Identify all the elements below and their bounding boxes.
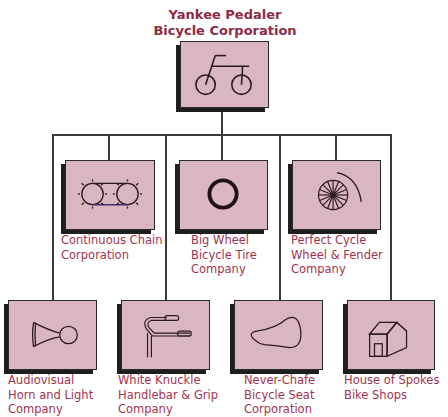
subsidiary-label-wheel: Perfect Cycle Wheel & Fender Company	[291, 233, 383, 277]
subsidiary-box-shops	[347, 300, 435, 370]
label-line: Bicycle Tire	[191, 248, 257, 263]
connector-to-handlebar	[165, 134, 167, 300]
label-line: Company	[291, 262, 383, 277]
label-line: Bicycle Seat	[244, 388, 315, 403]
subsidiary-box-tire	[179, 160, 268, 230]
root-company-title: Yankee Pedaler Bicycle Corporation	[140, 7, 310, 39]
label-line: Company	[8, 402, 93, 417]
tire-icon	[180, 161, 267, 229]
label-line: White Knuckle	[118, 373, 218, 388]
label-line: Company	[118, 402, 218, 417]
label-line: Audiovisual	[8, 373, 93, 388]
connector-to-horn	[52, 134, 54, 300]
bicycle-icon	[181, 42, 268, 107]
subsidiary-box-chain	[65, 160, 155, 230]
label-line: Handlebar & Grip	[118, 388, 218, 403]
label-line: Corporation	[244, 402, 315, 417]
chain-sprocket-icon	[66, 161, 154, 229]
root-title-line-1: Yankee Pedaler	[140, 7, 310, 23]
label-line: Horn and Light	[8, 388, 93, 403]
subsidiary-label-shops: House of Spokes Bike Shops	[344, 373, 439, 402]
handlebar-icon	[122, 301, 209, 369]
label-line: Continuous Chain	[61, 233, 162, 248]
subsidiary-label-tire: Big Wheel Bicycle Tire Company	[191, 233, 257, 277]
root-company-box	[180, 41, 269, 108]
subsidiary-label-seat: Never-Chafe Bicycle Seat Corporation	[244, 373, 315, 417]
label-line: Corporation	[61, 248, 162, 263]
connector-to-wheel	[335, 134, 337, 160]
house-icon	[348, 301, 434, 369]
bicycle-seat-icon	[235, 301, 322, 369]
connector-to-tire	[221, 134, 223, 160]
subsidiary-box-handlebar	[121, 300, 210, 370]
horn-icon	[9, 301, 96, 369]
label-line: Perfect Cycle	[291, 233, 383, 248]
subsidiary-box-seat	[234, 300, 323, 370]
label-line: Bike Shops	[344, 388, 439, 403]
connector-to-shops	[390, 134, 392, 300]
subsidiary-box-wheel	[292, 160, 381, 230]
label-line: House of Spokes	[344, 373, 439, 388]
subsidiary-label-handlebar: White Knuckle Handlebar & Grip Company	[118, 373, 218, 417]
label-line: Wheel & Fender	[291, 248, 383, 263]
label-line: Never-Chafe	[244, 373, 315, 388]
spoked-wheel-fender-icon	[293, 161, 380, 229]
subsidiary-label-chain: Continuous Chain Corporation	[61, 233, 162, 262]
subsidiary-label-horn: Audiovisual Horn and Light Company	[8, 373, 93, 417]
root-title-line-2: Bicycle Corporation	[140, 23, 310, 39]
label-line: Company	[191, 262, 257, 277]
subsidiary-box-horn	[8, 300, 97, 370]
connector-to-chain	[108, 134, 110, 160]
connector-root-down	[221, 108, 223, 135]
label-line: Big Wheel	[191, 233, 257, 248]
connector-to-seat	[279, 134, 281, 300]
